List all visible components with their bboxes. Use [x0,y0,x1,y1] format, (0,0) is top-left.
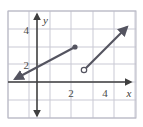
coordinate-plane-svg: 4 2 2 4 y x [0,0,143,127]
x-tick-label-2: 2 [68,87,74,99]
x-axis-label: x [126,87,132,99]
closed-endpoint-marker [72,44,77,49]
y-tick-label-2: 2 [24,59,30,71]
graph-figure: 4 2 2 4 y x [0,0,143,127]
x-tick-label-4: 4 [102,87,108,99]
open-endpoint-marker [81,67,86,72]
y-tick-label-4: 4 [24,24,30,36]
y-axis-label: y [42,14,48,26]
